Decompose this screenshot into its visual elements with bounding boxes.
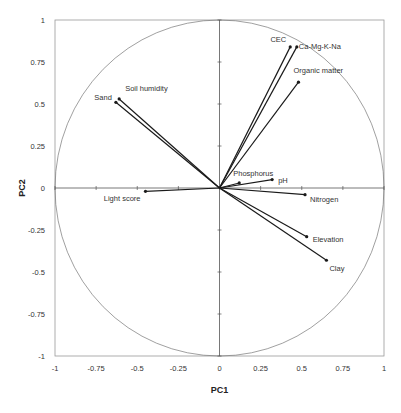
- vector-label: pH: [278, 176, 288, 185]
- y-tick-label: -0.25: [28, 226, 45, 235]
- vector-label: Ca-Mg-K-Na: [299, 42, 342, 51]
- x-tick-label: 0: [217, 364, 221, 373]
- y-tick-label: 0.25: [30, 142, 45, 151]
- vector-label: Light score: [104, 194, 141, 203]
- vector-label: Nitrogen: [310, 195, 338, 204]
- x-tick-label: -0.75: [88, 364, 105, 373]
- y-tick-label: 1: [41, 16, 45, 25]
- y-tick-label: 0.75: [30, 58, 45, 67]
- x-tick-label: -1: [52, 364, 59, 373]
- vector-endpoint: [303, 193, 306, 196]
- vector-endpoint: [289, 45, 292, 48]
- loading-vector: [116, 102, 220, 188]
- vector-label: CEC: [270, 35, 286, 44]
- y-axis-title: PC2: [17, 179, 27, 197]
- vector-label: Phosphorus: [233, 169, 273, 178]
- vector-label: Clay: [329, 264, 344, 273]
- vector-endpoint: [271, 178, 274, 181]
- x-axis-title: PC1: [211, 385, 229, 395]
- vector-label: Elevation: [313, 235, 344, 244]
- y-tick-label: 0.5: [35, 100, 45, 109]
- loading-vector: [145, 188, 219, 191]
- pca-biplot: -1-0.75-0.5-0.2500.250.50.75110.750.50.2…: [0, 0, 401, 413]
- x-tick-label: -0.5: [131, 364, 144, 373]
- vector-label: Sand: [94, 93, 112, 102]
- loading-vector: [119, 99, 219, 188]
- loading-vector: [220, 188, 307, 237]
- x-tick-label: 0.75: [336, 364, 351, 373]
- vector-label: Soil humidity: [125, 84, 168, 93]
- x-tick-label: 0.5: [297, 364, 307, 373]
- y-tick-label: -1: [38, 352, 45, 361]
- y-tick-label: -0.75: [28, 310, 45, 319]
- y-tick-label: 0: [41, 184, 45, 193]
- x-tick-label: -0.25: [170, 364, 187, 373]
- vector-endpoint: [114, 101, 117, 104]
- y-tick-label: -0.5: [32, 268, 45, 277]
- loading-vector: [220, 180, 273, 188]
- loading-vector: [220, 188, 306, 195]
- vector-endpoint: [325, 259, 328, 262]
- vector-label: Organic matter: [293, 66, 343, 75]
- x-tick-label: 1: [382, 364, 386, 373]
- vector-endpoint: [144, 190, 147, 193]
- vector-endpoint: [297, 81, 300, 84]
- loading-vector: [220, 47, 291, 188]
- vector-endpoint: [118, 97, 121, 100]
- vector-endpoint: [305, 235, 308, 238]
- x-tick-label: 0.25: [253, 364, 268, 373]
- loading-vector: [220, 47, 297, 188]
